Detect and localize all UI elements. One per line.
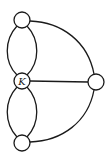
edge-top-center-right [27, 26, 37, 75]
node-center: K [14, 73, 30, 89]
node-top [14, 12, 30, 28]
node-bottom [14, 135, 30, 151]
node-right [88, 74, 104, 90]
edge-center-bottom-left [7, 87, 17, 137]
edge-center-right [30, 81, 88, 82]
edge-bottom-right [30, 90, 94, 142]
node-center-label: K [17, 76, 26, 87]
edge-center-bottom-right [27, 87, 37, 137]
edge-top-right [30, 21, 94, 74]
graph-diagram: K [0, 0, 109, 164]
edge-top-center-left [7, 26, 17, 75]
